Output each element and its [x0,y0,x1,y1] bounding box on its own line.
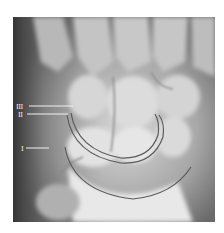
triquetrum [155,117,191,157]
hamate [156,75,200,119]
wrist-radiograph: III II I [13,17,215,222]
label-arc-III: III [16,103,24,111]
label-arc-II: II [18,111,23,119]
ulna [36,184,80,220]
trapezium [68,75,108,119]
